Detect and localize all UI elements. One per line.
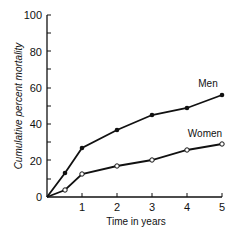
x-tick-4: 4 (184, 201, 190, 213)
men-point (63, 171, 68, 176)
y-axis-title: Cumulative percent mortality (13, 42, 24, 170)
x-axis (47, 193, 222, 197)
men-point (150, 113, 155, 118)
women-point (150, 158, 154, 162)
x-tick-3: 3 (149, 201, 155, 213)
men-point (80, 146, 85, 151)
x-tick-1: 1 (79, 201, 85, 213)
y-tick-100: 100 (24, 9, 42, 21)
women-point (185, 148, 189, 152)
y-tick-80: 80 (30, 46, 42, 58)
x-tick-2: 2 (114, 201, 120, 213)
series-women (47, 142, 224, 197)
y-tick-20: 20 (30, 155, 42, 167)
women-point (220, 142, 224, 146)
line-chart: 100 80 60 40 20 0 1 2 3 4 5 Time in year… (0, 0, 240, 235)
y-tick-60: 60 (30, 82, 42, 94)
women-point (80, 172, 84, 176)
women-label: Women (188, 128, 222, 139)
women-point (115, 164, 119, 168)
men-label: Men (198, 78, 217, 89)
y-tick-0: 0 (36, 191, 42, 203)
x-tick-5: 5 (219, 201, 225, 213)
men-point (185, 106, 190, 111)
x-axis-title: Time in years (106, 216, 166, 227)
y-axis (47, 15, 51, 197)
y-tick-40: 40 (30, 118, 42, 130)
men-point (220, 93, 225, 98)
women-point (63, 188, 67, 192)
men-point (115, 128, 120, 133)
